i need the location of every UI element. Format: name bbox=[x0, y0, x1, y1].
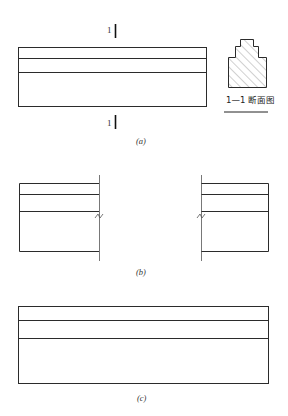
figure-c-caption: (c) bbox=[137, 393, 147, 403]
figure-c-outline bbox=[19, 307, 269, 384]
diagram-canvas: 1 1 1—1 断面图 (a) (b) (c) bbox=[0, 0, 288, 416]
cross-section-title: 1—1 断面图 bbox=[226, 95, 275, 105]
figure-c: (c) bbox=[19, 307, 269, 404]
section-mark-bottom-label: 1 bbox=[107, 118, 112, 128]
figure-a: 1 1 1—1 断面图 (a) bbox=[19, 24, 276, 146]
figure-b-left-break-symbol bbox=[95, 214, 103, 218]
figure-b-left-outline bbox=[20, 184, 100, 252]
figure-a-caption: (a) bbox=[136, 136, 146, 146]
figure-a-outline bbox=[19, 48, 207, 107]
cross-section-shape bbox=[229, 40, 267, 88]
figure-b-right-break-symbol bbox=[197, 214, 205, 218]
figure-b: (b) bbox=[20, 175, 269, 277]
figure-b-right-outline bbox=[201, 184, 269, 252]
section-mark-top-label: 1 bbox=[107, 25, 112, 35]
figure-b-caption: (b) bbox=[136, 267, 146, 277]
